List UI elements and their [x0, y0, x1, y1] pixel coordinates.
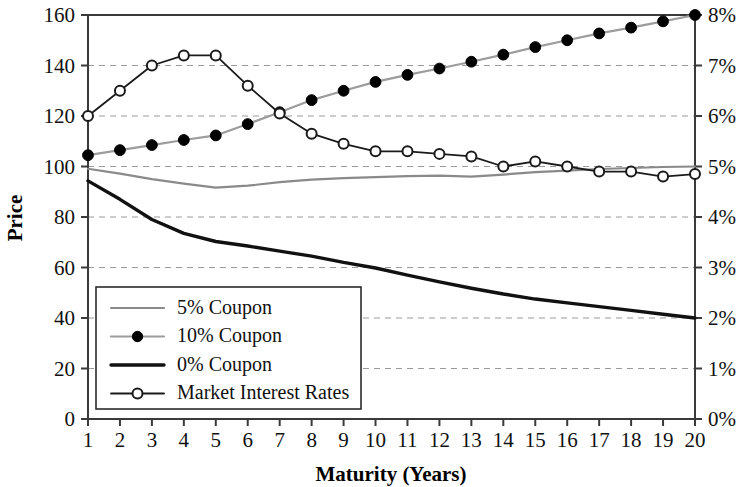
- data-point-marker: [115, 145, 126, 156]
- data-point-marker: [466, 151, 476, 161]
- bond-price-maturity-chart: 020406080100120140160 0%1%2%3%4%5%6%7%8%…: [0, 0, 739, 487]
- data-point-marker: [402, 146, 412, 156]
- y-axis-left-tick-label: 100: [44, 155, 76, 179]
- data-point-marker: [690, 169, 700, 179]
- y-axis-left-tick-label: 20: [54, 357, 75, 381]
- y-axis-title: Price: [3, 195, 27, 242]
- data-point-marker: [243, 81, 253, 91]
- data-point-marker: [370, 77, 381, 88]
- data-point-marker: [339, 139, 349, 149]
- x-axis-tick-label: 8: [306, 428, 317, 452]
- data-point-marker: [498, 162, 508, 172]
- legend-label: 10% Coupon: [177, 324, 282, 347]
- x-axis-tick-label: 15: [525, 428, 546, 452]
- y-axis-right-tick-label: 3%: [708, 256, 736, 280]
- data-point-marker: [83, 150, 94, 161]
- data-point-marker: [146, 140, 157, 151]
- data-point-marker: [434, 149, 444, 159]
- y-axis-right-tick-label: 1%: [708, 357, 736, 381]
- series-10-coupon: [83, 10, 701, 161]
- x-axis-title: Maturity (Years): [315, 462, 466, 486]
- x-axis-tick-label: 7: [274, 428, 285, 452]
- data-point-marker: [562, 35, 573, 46]
- data-point-marker: [275, 108, 285, 118]
- data-point-marker: [115, 86, 125, 96]
- data-point-marker: [434, 63, 445, 74]
- x-axis-tick-label: 4: [179, 428, 190, 452]
- y-axis-right-tick-label: 5%: [708, 155, 736, 179]
- data-point-marker: [307, 129, 317, 139]
- x-axis-tick-label: 11: [397, 428, 417, 452]
- data-series-group: [83, 10, 701, 318]
- data-point-marker: [306, 95, 317, 106]
- y-axis-left-tick-labels: 020406080100120140160: [44, 3, 76, 431]
- data-point-marker: [562, 162, 572, 172]
- x-axis-tick-label: 16: [557, 428, 578, 452]
- y-axis-right-tick-labels: 0%1%2%3%4%5%6%7%8%: [708, 3, 736, 431]
- data-point-marker: [626, 167, 636, 177]
- y-axis-left-tick-label: 40: [54, 306, 75, 330]
- y-axis-right-tick-label: 6%: [708, 104, 736, 128]
- data-point-marker: [83, 111, 93, 121]
- data-point-marker: [402, 69, 413, 80]
- data-point-marker: [210, 130, 221, 141]
- y-axis-left-tick-label: 140: [44, 54, 76, 78]
- y-axis-left-tick-label: 0: [65, 407, 76, 431]
- data-point-marker: [371, 146, 381, 156]
- legend-label: 5% Coupon: [177, 296, 272, 319]
- y-axis-left-tick-label: 160: [44, 3, 76, 27]
- chart-legend: 5% Coupon10% Coupon0% CouponMarket Inter…: [96, 287, 361, 409]
- x-axis-tick-label: 18: [621, 428, 642, 452]
- data-point-marker: [147, 61, 157, 71]
- data-point-marker: [242, 119, 253, 130]
- y-axis-right-tick-label: 8%: [708, 3, 736, 27]
- x-axis-tick-label: 12: [429, 428, 450, 452]
- x-axis-tick-label: 2: [115, 428, 126, 452]
- data-point-marker: [594, 167, 604, 177]
- x-axis-tick-label: 10: [365, 428, 386, 452]
- x-axis-tick-label: 6: [242, 428, 253, 452]
- data-point-marker: [466, 56, 477, 67]
- x-axis-tick-label: 13: [461, 428, 482, 452]
- data-point-marker: [498, 49, 509, 60]
- data-point-marker: [211, 50, 221, 60]
- data-point-marker: [658, 16, 669, 27]
- data-point-marker: [530, 42, 541, 53]
- y-axis-left-tick-label: 60: [54, 256, 75, 280]
- x-axis-tick-label: 14: [493, 428, 515, 452]
- data-point-marker: [530, 156, 540, 166]
- legend-swatch-marker: [133, 389, 143, 399]
- data-point-marker: [658, 172, 668, 182]
- y-axis-right-tick-label: 2%: [708, 306, 736, 330]
- x-axis-tick-labels: 1234567891011121314151617181920: [83, 428, 706, 452]
- x-axis-tick-label: 20: [685, 428, 706, 452]
- legend-label: 0% Coupon: [177, 353, 272, 376]
- chart-canvas: 020406080100120140160 0%1%2%3%4%5%6%7%8%…: [0, 0, 739, 487]
- y-axis-left-tick-label: 120: [44, 104, 76, 128]
- data-point-marker: [178, 135, 189, 146]
- y-axis-left-tick-label: 80: [54, 205, 75, 229]
- data-point-marker: [594, 28, 605, 39]
- x-axis-tick-label: 17: [589, 428, 610, 452]
- data-point-marker: [179, 50, 189, 60]
- y-axis-right-tick-label: 7%: [708, 54, 736, 78]
- x-axis-tick-label: 3: [147, 428, 158, 452]
- data-point-marker: [626, 22, 637, 33]
- x-axis-tick-label: 19: [653, 428, 674, 452]
- x-axis-tick-label: 1: [83, 428, 94, 452]
- x-axis-tick-label: 9: [338, 428, 349, 452]
- data-point-marker: [338, 85, 349, 96]
- x-axis-tick-label: 5: [211, 428, 222, 452]
- legend-swatch-marker: [132, 331, 142, 341]
- y-axis-right-tick-label: 4%: [708, 205, 736, 229]
- data-point-marker: [690, 10, 701, 21]
- y-axis-right-tick-label: 0%: [708, 407, 736, 431]
- legend-label: Market Interest Rates: [177, 381, 349, 403]
